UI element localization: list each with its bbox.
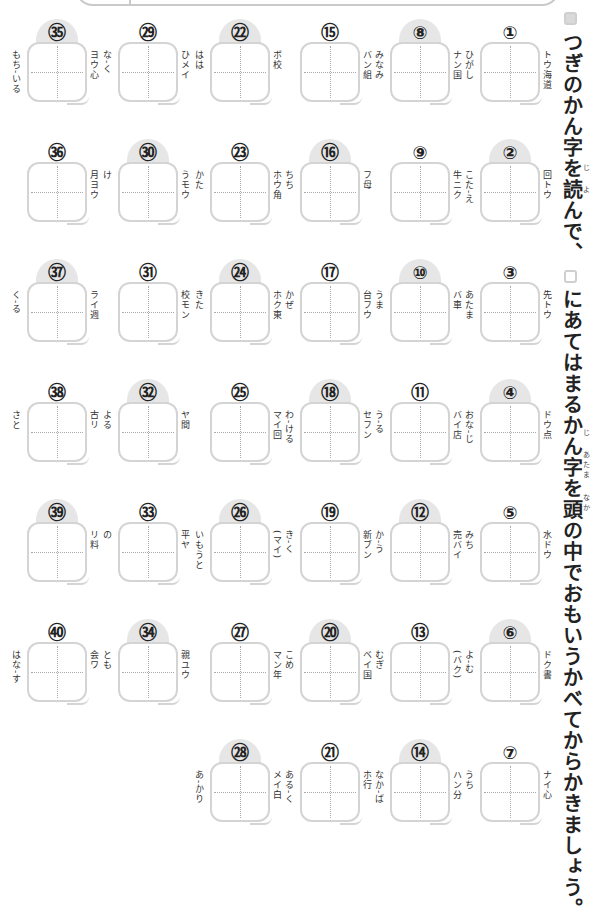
box-curl <box>520 217 542 225</box>
answer-box[interactable] <box>300 762 360 822</box>
answer-box[interactable] <box>480 42 540 102</box>
box-curl <box>67 97 89 105</box>
answer-box[interactable] <box>390 42 450 102</box>
answer-box[interactable] <box>480 522 540 582</box>
box-curl <box>340 697 362 705</box>
answer-box[interactable] <box>390 162 450 222</box>
answer-box[interactable] <box>480 402 540 462</box>
answer-box[interactable] <box>300 642 360 702</box>
answer-box[interactable] <box>210 42 270 102</box>
kanji-item: ㊴リ料 <box>25 502 115 622</box>
answer-box[interactable] <box>27 282 87 342</box>
answer-box[interactable] <box>480 282 540 342</box>
reading-text: もち-いる <box>11 50 21 94</box>
box-curl <box>250 217 272 225</box>
answer-box[interactable] <box>210 642 270 702</box>
box-curl <box>430 577 452 585</box>
clue-text: ドウ点 <box>542 410 552 440</box>
clue-text: マン年 <box>272 650 282 680</box>
answer-box[interactable] <box>210 522 270 582</box>
kanji-item: ㉝平ヤの <box>116 502 206 622</box>
answer-box[interactable] <box>210 402 270 462</box>
kanji-item: ⑫売バイか-う <box>388 502 478 622</box>
answer-box[interactable] <box>210 162 270 222</box>
box-curl <box>340 457 362 465</box>
clue-text: ライ週 <box>89 290 99 320</box>
box-curl <box>250 577 272 585</box>
kanji-item: ⑨牛ニク <box>388 142 478 262</box>
answer-box[interactable] <box>300 162 360 222</box>
answer-box[interactable] <box>300 42 360 102</box>
answer-box[interactable] <box>27 162 87 222</box>
clue-text: ヨウ心 <box>89 50 99 80</box>
kanji-item: ㊳古リさと <box>25 382 115 502</box>
kanji-item: ㉙ひメイな-く <box>116 22 206 142</box>
answer-box[interactable] <box>118 402 178 462</box>
header-divider <box>129 0 131 6</box>
clue-text: バ車 <box>452 290 462 310</box>
clue-text: ホク東 <box>272 290 282 320</box>
kanji-item: ㊲ライ週く-る <box>25 262 115 382</box>
box-curl <box>430 697 452 705</box>
answer-box[interactable] <box>27 42 87 102</box>
answer-box[interactable] <box>390 522 450 582</box>
kanji-item: ㉘メイ白あ-かり <box>208 742 298 862</box>
box-curl <box>520 817 542 825</box>
box-curl <box>340 217 362 225</box>
box-curl <box>67 577 89 585</box>
clue-text: 古リ <box>89 410 99 430</box>
answer-box[interactable] <box>390 762 450 822</box>
answer-box[interactable] <box>118 642 178 702</box>
answer-box[interactable] <box>27 402 87 462</box>
answer-box[interactable] <box>210 762 270 822</box>
box-curl <box>67 337 89 345</box>
clue-text: リ料 <box>89 530 99 550</box>
kanji-item: ⑪バイ店う-る <box>388 382 478 502</box>
answer-box[interactable] <box>27 642 87 702</box>
clue-text: 水ドウ <box>542 530 552 560</box>
answer-box[interactable] <box>118 282 178 342</box>
clue-text: うモウ <box>180 170 190 200</box>
clue-text: バイ店 <box>452 410 462 440</box>
box-curl <box>158 457 180 465</box>
reading-text: あ-かり <box>194 770 204 804</box>
clue-text: (バク) <box>452 650 462 679</box>
answer-box[interactable] <box>300 402 360 462</box>
kanji-item: ⑱セフンわ-ける <box>298 382 388 502</box>
clue-text: 先トウ <box>542 290 552 320</box>
answer-box[interactable] <box>480 642 540 702</box>
kanji-item: ㉕マイ回 <box>208 382 298 502</box>
answer-box[interactable] <box>210 282 270 342</box>
clue-text: マイ回 <box>272 410 282 440</box>
header-frame <box>75 0 560 6</box>
clue-text: ベイ国 <box>362 650 372 680</box>
answer-box[interactable] <box>390 642 450 702</box>
answer-box[interactable] <box>480 162 540 222</box>
clue-text: バン組 <box>362 50 372 80</box>
clue-text: ホ行 <box>362 770 372 790</box>
clue-text: 新ブン <box>362 530 372 560</box>
kanji-item: ⑭ハン分なか-ば <box>388 742 478 862</box>
clue-text: 回トウ <box>542 170 552 200</box>
kanji-item: ㉜ヤ間よる <box>116 382 206 502</box>
kanji-item: ⑥ドク書よ-む <box>478 622 568 742</box>
answer-box[interactable] <box>300 282 360 342</box>
ruby-yo: よ <box>583 184 590 194</box>
answer-box[interactable] <box>480 762 540 822</box>
clue-text: ハン分 <box>452 770 462 800</box>
kanji-item: ㊵会ワはな-す <box>25 622 115 742</box>
kanji-item: ㉖(マイ)いもうと <box>208 502 298 622</box>
answer-box[interactable] <box>118 162 178 222</box>
answer-box[interactable] <box>390 282 450 342</box>
answer-box[interactable] <box>300 522 360 582</box>
answer-box[interactable] <box>118 42 178 102</box>
reading-text: さと <box>11 410 21 430</box>
answer-box[interactable] <box>27 522 87 582</box>
clue-text: 校モン <box>180 290 190 320</box>
box-curl <box>67 217 89 225</box>
answer-box[interactable] <box>118 522 178 582</box>
answer-box[interactable] <box>390 402 450 462</box>
box-curl <box>430 457 452 465</box>
box-curl <box>158 97 180 105</box>
ruby-ji: じ <box>583 162 590 172</box>
